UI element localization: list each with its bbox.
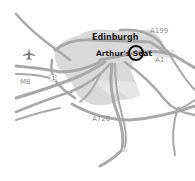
poi-label[interactable]: Arthur's Seat: [96, 50, 152, 58]
junction-number: 1: [52, 76, 55, 81]
road-label-a199: A199: [150, 28, 168, 35]
road-junction-dot: [123, 148, 128, 153]
road-label-a720: A720: [92, 116, 110, 123]
airplane-icon: [23, 48, 35, 60]
road-a720: [72, 104, 195, 120]
road-label-m8: M8: [20, 79, 31, 86]
road: [173, 108, 178, 155]
road-label-a1: A1: [155, 57, 164, 64]
road: [16, 14, 70, 60]
city-label: Edinburgh: [92, 34, 138, 42]
